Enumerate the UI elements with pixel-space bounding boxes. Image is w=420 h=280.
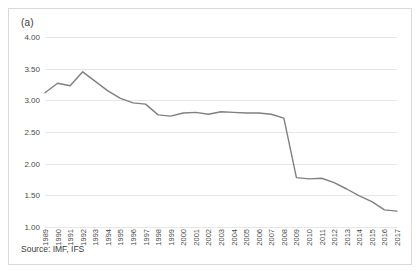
x-tick-label: 1998 (154, 229, 163, 246)
x-tick-label: 1995 (116, 229, 125, 246)
line-series-svg (45, 37, 397, 227)
x-tick-label: 2011 (318, 229, 327, 245)
x-tick-label: 1999 (167, 229, 176, 246)
x-tick-label: 2003 (217, 229, 226, 246)
x-tick-label: 1997 (142, 229, 151, 246)
y-tick-label: 4.00 (24, 33, 40, 42)
y-tick-label: 2.50 (24, 128, 40, 137)
x-tick-label: 1996 (129, 229, 138, 246)
x-tick-label: 2009 (292, 229, 301, 246)
x-tick-label: 2001 (192, 229, 201, 246)
x-axis-tick-labels: 1989199019911992199319941995199619971998… (45, 229, 397, 261)
x-tick-label: 2015 (368, 229, 377, 246)
x-tick-label: 2000 (179, 229, 188, 246)
source-note: Source: IMF, IFS (21, 244, 84, 254)
stray-mark: ′ (105, 235, 106, 242)
x-tick-label: 2013 (343, 229, 352, 246)
x-tick-label: 2014 (355, 229, 364, 246)
x-tick-label: 2007 (267, 229, 276, 246)
plot-area: 4.003.503.002.502.001.501.00 (45, 37, 397, 227)
x-tick-label: 1993 (91, 229, 100, 246)
y-tick-label: 3.00 (24, 96, 40, 105)
y-tick-label: 1.50 (24, 191, 40, 200)
x-tick-label: 2017 (393, 229, 402, 246)
line-series-path (45, 72, 397, 211)
y-tick-label: 1.00 (24, 223, 40, 232)
x-tick-label: 2016 (380, 229, 389, 246)
gridline (45, 227, 397, 228)
x-tick-label: 2006 (255, 229, 264, 246)
y-tick-label: 3.50 (24, 64, 40, 73)
x-tick-label: 2012 (330, 229, 339, 246)
x-tick-label: 2010 (305, 229, 314, 246)
chart-figure: (a) 4.003.503.002.502.001.501.00 1989199… (8, 8, 412, 265)
panel-label: (a) (21, 17, 34, 28)
y-tick-label: 2.00 (24, 159, 40, 168)
x-tick-label: 2002 (204, 229, 213, 246)
x-tick-label: 2008 (280, 229, 289, 246)
x-tick-label: 2005 (242, 229, 251, 246)
x-tick-label: 2004 (230, 229, 239, 246)
